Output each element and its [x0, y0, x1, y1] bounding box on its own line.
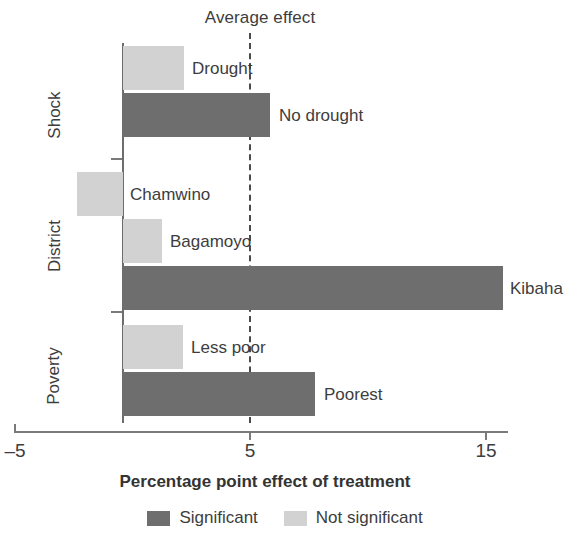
legend-label-significant: Significant — [179, 508, 257, 528]
legend-item-significant: Significant — [147, 508, 257, 528]
x-tick-label-15: 15 — [456, 440, 516, 462]
bar-label-bagamoyo: Bagamoyo — [170, 233, 251, 250]
bar-poorest — [123, 372, 315, 416]
plot-area: Shock Drought No drought District Chamwi… — [0, 33, 570, 423]
bar-label-no-drought: No drought — [279, 107, 363, 124]
group-label-district: District — [45, 195, 65, 297]
bar-less-poor — [123, 325, 183, 369]
x-tick-15 — [485, 433, 487, 440]
bar-chamwino — [77, 172, 123, 216]
bar-chart: Average effect Shock Drought No drought … — [0, 0, 570, 535]
x-axis-line — [14, 431, 508, 433]
bar-label-kibaha: Kibaha — [510, 280, 563, 297]
group-separator-tick-shock-district — [111, 158, 122, 160]
legend-swatch-significant-icon — [147, 511, 170, 526]
group-label-poverty: Poverty — [44, 326, 64, 426]
bar-label-poorest: Poorest — [324, 386, 383, 403]
bar-bagamoyo — [123, 219, 162, 263]
x-tick-label-neg5: –5 — [0, 440, 45, 462]
x-tick-5 — [249, 433, 251, 440]
bar-label-drought: Drought — [192, 60, 252, 77]
bar-kibaha — [123, 266, 503, 310]
group-separator-tick-district-poverty — [111, 311, 122, 313]
chart-legend: Significant Not significant — [0, 508, 570, 528]
average-effect-annotation: Average effect — [180, 8, 340, 28]
bar-label-less-poor: Less poor — [191, 339, 266, 356]
legend-label-not-significant: Not significant — [316, 508, 423, 528]
bar-label-chamwino: Chamwino — [130, 186, 210, 203]
bar-drought — [123, 46, 184, 90]
legend-swatch-not-significant-icon — [284, 511, 307, 526]
group-label-shock: Shock — [45, 70, 65, 160]
x-tick-label-5: 5 — [220, 440, 280, 462]
legend-item-not-significant: Not significant — [284, 508, 423, 528]
x-tick-neg5 — [14, 424, 16, 433]
x-axis-title: Percentage point effect of treatment — [0, 472, 530, 492]
bar-no-drought — [123, 93, 270, 137]
